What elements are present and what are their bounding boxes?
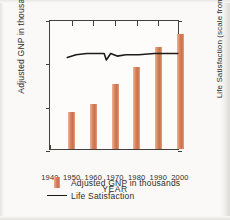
page-edge-bottom <box>0 216 230 220</box>
life-satisfaction-polyline <box>67 54 178 61</box>
secondary-y-axis-title: Life Satisfaction (scale from 0 to 10) <box>215 0 224 104</box>
bar-swatch-icon <box>54 177 60 188</box>
line-series-life-satisfaction <box>50 21 180 151</box>
y-axis-title: Adjusted GNP in thousands <box>16 0 26 104</box>
line-swatch-icon <box>47 195 67 196</box>
plot-area: 0102030 010 1940195019601970198019902000… <box>49 20 179 150</box>
legend-item-adjusted-gnp: Adjusted GNP in thousands <box>47 176 222 189</box>
y-axis-tick <box>46 151 50 152</box>
legend-item-label: Life Satisfaction <box>71 191 134 201</box>
legend-item-life-satisfaction: Life Satisfaction <box>47 189 222 202</box>
chart-legend: Adjusted GNP in thousands Life Satisfact… <box>47 176 222 202</box>
page-edge-top <box>0 0 230 3</box>
page-edge-left <box>0 0 4 220</box>
chart-figure: Adjusted GNP in thousands Life Satisfact… <box>0 0 230 220</box>
secondary-y-axis-tick <box>178 151 182 152</box>
legend-item-label: Adjusted GNP in thousands <box>71 178 180 188</box>
